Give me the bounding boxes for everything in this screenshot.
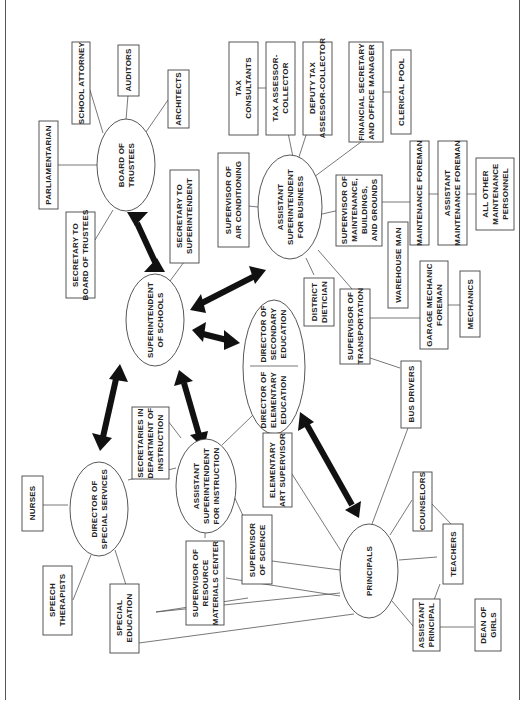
svg-text:ASSISTANTPRINCIPAL: ASSISTANTPRINCIPAL: [417, 602, 436, 649]
box-teachers: TEACHERS: [443, 524, 463, 584]
ellipse-special-services: DIRECTOR OFSPECIAL SERVICES: [70, 462, 128, 556]
box-tax-assessor: TAX ASSESSOR-COLLECTOR: [266, 42, 295, 135]
svg-text:MAINTENANCE FOREMAN: MAINTENANCE FOREMAN: [415, 140, 424, 246]
svg-text:ALL OTHERMAINTENANCEPERSONNEL: ALL OTHERMAINTENANCEPERSONNEL: [481, 163, 510, 225]
ellipse-asst-superintendent-business: ASSISTANTSUPERINTENDENTFOR BUSINESS: [258, 155, 322, 259]
box-secretaries-instruction: SECRETARIES INDEPARTMENT OFINSTRUCTION: [132, 407, 169, 479]
box-maintenance-foreman: MAINTENANCE FOREMAN: [410, 140, 429, 246]
ellipse-superintendent: SUPERINTENDENTOF SCHOOLS: [126, 274, 184, 366]
svg-text:SCHOOL ATTORNEY: SCHOOL ATTORNEY: [77, 41, 86, 124]
box-warehouse-man: WAREHOUSE MAN: [388, 222, 408, 308]
svg-text:DISTRICTDIETICIAN: DISTRICTDIETICIAN: [310, 281, 329, 323]
box-district-dietician: DISTRICTDIETICIAN: [304, 278, 334, 326]
box-parliamentarian: PARLIAMENTARIAN: [39, 121, 58, 209]
box-transportation: SUPERVISOR OFTRANSPORTATION: [340, 288, 370, 364]
svg-text:SUPERVISOROF SCIENCE: SUPERVISOROF SCIENCE: [248, 523, 267, 577]
svg-text:CLERICAL POOL: CLERICAL POOL: [397, 58, 406, 126]
svg-text:SUPERVISOR OFMAINTENANCE,BUILD: SUPERVISOR OFMAINTENANCE,BUILDINGS,AND G…: [340, 176, 379, 244]
svg-text:BOARD OFTRUSTEES: BOARD OFTRUSTEES: [117, 142, 136, 187]
ellipse-board-of-trustees: BOARD OFTRUSTEES: [97, 119, 155, 211]
svg-text:PRINCIPALS: PRINCIPALS: [365, 546, 374, 596]
svg-text:DIRECTOR OFSPECIAL SERVICES: DIRECTOR OFSPECIAL SERVICES: [90, 468, 109, 549]
svg-text:SUPERVISOR OFAIR CONDITIONING: SUPERVISOR OFAIR CONDITIONING: [224, 161, 243, 239]
svg-text:AUDITORS: AUDITORS: [124, 48, 133, 92]
box-mechanics: MECHANICS: [460, 271, 480, 337]
svg-text:FINANCIAL SECRETARYAND OFFICE: FINANCIAL SECRETARYAND OFFICE MANAGER: [357, 43, 376, 141]
box-special-education: SPECIALEDUCATION: [110, 584, 139, 653]
svg-text:MECHANICS: MECHANICS: [466, 278, 475, 329]
box-supervisor-science: SUPERVISOROF SCIENCE: [242, 515, 272, 584]
box-architects: ARCHITECTS: [168, 70, 189, 128]
svg-text:DIRECTOR OFSECONDARYEDUCATION: DIRECTOR OFSECONDARYEDUCATION: [259, 305, 288, 362]
svg-text:SUPERINTENDENTOF SCHOOLS: SUPERINTENDENTOF SCHOOLS: [146, 282, 165, 358]
box-bus-drivers: BUS DRIVERS: [401, 361, 421, 428]
box-asst-maintenance-foreman: ASSISTANTMAINTENANCE FOREMAN: [438, 140, 467, 246]
box-assistant-principal: ASSISTANTPRINCIPAL: [413, 599, 440, 651]
svg-text:TEACHERS: TEACHERS: [449, 531, 458, 577]
svg-text:DIRECTOR OFELEMENTARYEDUCATION: DIRECTOR OFELEMENTARYEDUCATION: [259, 371, 288, 428]
svg-text:BUS DRIVERS: BUS DRIVERS: [407, 365, 416, 422]
ellipse-directors-education: DIRECTOR OFELEMENTARYEDUCATION DIRECTOR …: [243, 300, 305, 434]
svg-text:SECRETARY TOSUPERINTENDENT: SECRETARY TOSUPERINTENDENT: [175, 178, 194, 254]
svg-text:ARCHITECTS: ARCHITECTS: [174, 72, 183, 126]
svg-text:SECRETARIES INDEPARTMENT OFINS: SECRETARIES INDEPARTMENT OFINSTRUCTION: [136, 408, 165, 479]
box-clerical-pool: CLERICAL POOL: [391, 50, 411, 134]
svg-text:COUNSELORS: COUNSELORS: [418, 471, 427, 530]
svg-text:SPECIALEDUCATION: SPECIALEDUCATION: [115, 594, 134, 643]
svg-text:TAX ASSESSOR-COLLECTOR: TAX ASSESSOR-COLLECTOR: [271, 54, 290, 121]
svg-text:WAREHOUSE MAN: WAREHOUSE MAN: [394, 227, 403, 303]
box-school-attorney: SCHOOL ATTORNEY: [72, 41, 90, 124]
svg-text:ELEMENTARYART SUPERVISOR: ELEMENTARYART SUPERVISOR: [268, 433, 287, 507]
box-secretary-superintendent: SECRETARY TOSUPERINTENDENT: [170, 170, 199, 263]
svg-text:NURSES: NURSES: [28, 485, 37, 520]
box-maintenance-supervisor: SUPERVISOR OFMAINTENANCE,BUILDINGS,AND G…: [336, 175, 382, 246]
box-other-maintenance: ALL OTHERMAINTENANCEPERSONNEL: [476, 158, 514, 230]
box-auditors: AUDITORS: [118, 45, 139, 96]
box-elementary-art-supervisor: ELEMENTARYART SUPERVISOR: [263, 433, 292, 507]
box-air-conditioning: SUPERVISOR OFAIR CONDITIONING: [218, 153, 249, 247]
box-garage-mechanic-foreman: GARAGE MECHANICFOREMAN: [420, 261, 448, 349]
box-secretary-board: SECRETARY TOBOARD OF TRUSTEES: [66, 209, 95, 300]
ellipse-principals: PRINCIPALS: [340, 524, 398, 618]
box-financial-secretary: FINANCIAL SECRETARYAND OFFICE MANAGER: [349, 42, 383, 142]
box-nurses: NURSES: [22, 476, 43, 531]
box-deputy-tax: DEPUTY TAXASSESSOR-COLLECTOR: [303, 38, 332, 138]
box-speech-therapists: SPEECHTHERAPISTS: [43, 566, 72, 635]
box-tax-consultants: TAXCONSULTANTS: [229, 42, 258, 135]
box-counselors: COUNSELORS: [413, 471, 432, 531]
org-chart: BOARD OFTRUSTEES SUPERINTENDENTOF SCHOOL…: [0, 0, 526, 710]
svg-text:PARLIAMENTARIAN: PARLIAMENTARIAN: [44, 125, 53, 205]
svg-text:SUPERVISOR OFTRANSPORTATION: SUPERVISOR OFTRANSPORTATION: [346, 288, 365, 364]
box-dean-of-girls: DEAN OFGIRLS: [475, 599, 501, 651]
ellipse-asst-superintendent-instruction: ASSISTANTSUPERINTENDENTFOR INSTRUCTION: [176, 439, 236, 533]
box-resource-materials-center: SUPERVISOR OFRESOURCEMATERIALS CENTER: [186, 541, 224, 625]
